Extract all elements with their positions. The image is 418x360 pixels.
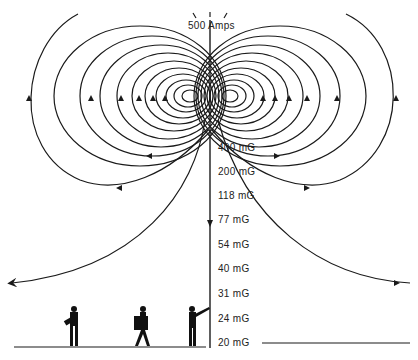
field-label-54: 54 mG: [218, 239, 250, 250]
person-carrying-box-icon: [134, 306, 150, 346]
field-label-200: 200 mG: [218, 166, 255, 177]
people: [64, 306, 210, 346]
field-lines: [12, 12, 410, 348]
person-carrying-bag-icon: [64, 306, 78, 346]
field-label-24: 24 mG: [218, 313, 250, 324]
field-label-20: 20 mG: [218, 337, 250, 348]
person-pointing-icon: [189, 306, 210, 346]
field-label-31: 31 mG: [218, 288, 250, 299]
current-label: 500 Amps: [188, 20, 235, 31]
field-label-118: 118 mG: [218, 190, 255, 201]
field-label-77: 77 mG: [218, 214, 250, 225]
field-label-40: 40 mG: [218, 263, 250, 274]
magnetic-field-diagram: [0, 0, 418, 360]
field-label-400: 400 mG: [218, 142, 255, 153]
